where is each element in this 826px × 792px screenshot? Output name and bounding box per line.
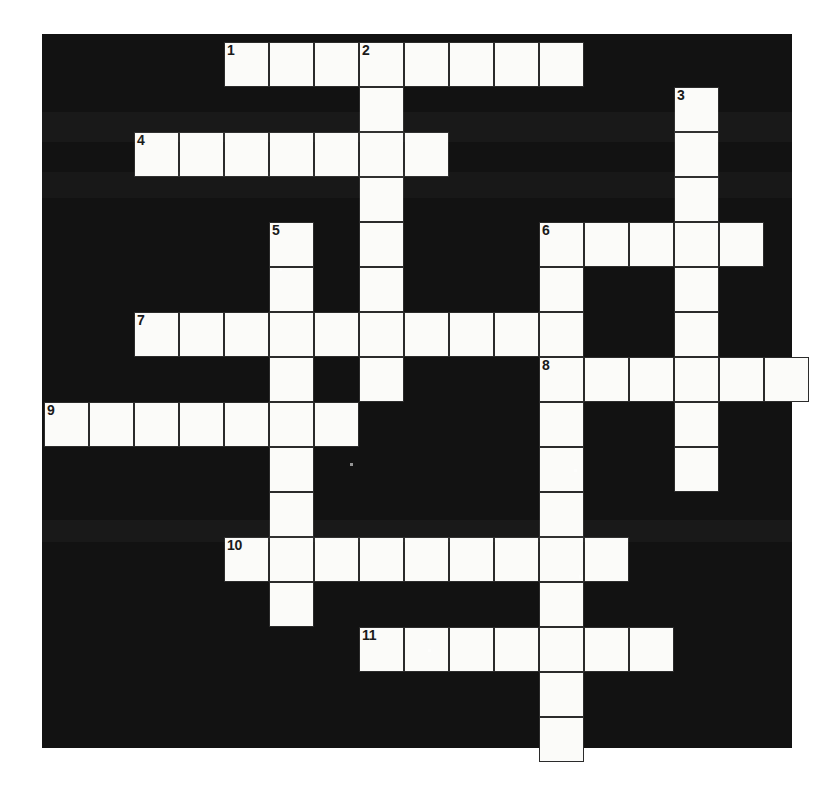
crossword-cell[interactable] <box>629 357 674 402</box>
crossword-cell[interactable]: 6 <box>539 222 584 267</box>
crossword-puzzle-page: 1234567891011 <box>0 0 826 792</box>
crossword-cell[interactable] <box>584 537 629 582</box>
crossword-cell[interactable] <box>179 312 224 357</box>
crossword-cell[interactable] <box>449 627 494 672</box>
crossword-cell[interactable] <box>494 312 539 357</box>
crossword-cell[interactable] <box>314 312 359 357</box>
crossword-cell[interactable] <box>494 537 539 582</box>
crossword-cell[interactable] <box>314 402 359 447</box>
clue-number: 1 <box>227 43 235 58</box>
crossword-cell[interactable] <box>674 402 719 447</box>
crossword-cell[interactable] <box>539 672 584 717</box>
crossword-cell[interactable] <box>539 492 584 537</box>
crossword-cell[interactable] <box>179 132 224 177</box>
clue-number: 2 <box>362 43 370 58</box>
crossword-cell[interactable] <box>359 357 404 402</box>
crossword-cell[interactable] <box>404 42 449 87</box>
crossword-cell[interactable] <box>629 222 674 267</box>
crossword-cell[interactable] <box>449 42 494 87</box>
crossword-cell[interactable]: 11 <box>359 627 404 672</box>
crossword-cell[interactable] <box>269 447 314 492</box>
crossword-cell[interactable] <box>539 582 584 627</box>
crossword-cell[interactable] <box>764 357 809 402</box>
crossword-cell[interactable] <box>539 717 584 762</box>
crossword-cell[interactable]: 4 <box>134 132 179 177</box>
crossword-grid[interactable]: 1234567891011 <box>42 34 792 748</box>
crossword-cell[interactable] <box>269 582 314 627</box>
crossword-cell[interactable] <box>224 312 269 357</box>
crossword-cell[interactable] <box>224 402 269 447</box>
crossword-cell[interactable]: 9 <box>44 402 89 447</box>
clue-number: 9 <box>47 403 55 418</box>
clue-number: 4 <box>137 133 145 148</box>
clue-number: 3 <box>677 88 685 103</box>
crossword-cell[interactable] <box>404 132 449 177</box>
crossword-cell[interactable] <box>314 537 359 582</box>
crossword-cell[interactable] <box>674 177 719 222</box>
crossword-cell[interactable] <box>269 537 314 582</box>
crossword-cell[interactable] <box>584 627 629 672</box>
crossword-cell[interactable] <box>404 627 449 672</box>
crossword-cell[interactable] <box>269 267 314 312</box>
crossword-cell[interactable] <box>719 357 764 402</box>
clue-number: 5 <box>272 223 280 238</box>
clue-number: 7 <box>137 313 145 328</box>
crossword-cell[interactable] <box>674 312 719 357</box>
crossword-cell[interactable] <box>674 447 719 492</box>
crossword-cell[interactable] <box>674 222 719 267</box>
crossword-cell[interactable] <box>719 222 764 267</box>
crossword-cell[interactable] <box>449 312 494 357</box>
crossword-cell[interactable]: 7 <box>134 312 179 357</box>
crossword-cell[interactable] <box>89 402 134 447</box>
crossword-cell[interactable] <box>539 402 584 447</box>
clue-number: 6 <box>542 223 550 238</box>
crossword-cell[interactable] <box>584 222 629 267</box>
crossword-cell[interactable]: 8 <box>539 357 584 402</box>
crossword-cell[interactable]: 5 <box>269 222 314 267</box>
crossword-cell[interactable] <box>314 132 359 177</box>
crossword-cell[interactable] <box>359 537 404 582</box>
crossword-cell[interactable] <box>179 402 224 447</box>
crossword-cell[interactable] <box>314 42 359 87</box>
clue-number: 8 <box>542 358 550 373</box>
crossword-cell[interactable]: 2 <box>359 42 404 87</box>
crossword-cell[interactable]: 10 <box>224 537 269 582</box>
crossword-cell[interactable] <box>539 537 584 582</box>
crossword-cell[interactable] <box>359 222 404 267</box>
crossword-cell[interactable] <box>449 537 494 582</box>
crossword-cell[interactable] <box>494 42 539 87</box>
crossword-cell[interactable] <box>359 132 404 177</box>
crossword-cell[interactable] <box>539 447 584 492</box>
crossword-cell[interactable] <box>539 312 584 357</box>
crossword-cell[interactable] <box>584 357 629 402</box>
crossword-cell[interactable] <box>269 492 314 537</box>
crossword-cell[interactable] <box>224 132 269 177</box>
crossword-cell[interactable] <box>134 402 179 447</box>
crossword-cell[interactable] <box>674 267 719 312</box>
crossword-cell[interactable]: 1 <box>224 42 269 87</box>
crossword-cell[interactable] <box>269 312 314 357</box>
crossword-cell[interactable] <box>269 357 314 402</box>
crossword-cell[interactable] <box>359 267 404 312</box>
crossword-cell[interactable] <box>269 42 314 87</box>
crossword-cell[interactable] <box>359 312 404 357</box>
crossword-cell[interactable] <box>269 402 314 447</box>
crossword-cell[interactable] <box>539 267 584 312</box>
crossword-cell[interactable] <box>539 42 584 87</box>
clue-number: 11 <box>362 628 376 643</box>
crossword-cell[interactable] <box>269 132 314 177</box>
crossword-cell[interactable] <box>674 357 719 402</box>
crossword-cell[interactable] <box>359 177 404 222</box>
crossword-cell[interactable] <box>359 87 404 132</box>
crossword-cell[interactable] <box>404 312 449 357</box>
crossword-cell[interactable] <box>539 627 584 672</box>
crossword-cell[interactable] <box>494 627 539 672</box>
crossword-cell[interactable]: 3 <box>674 87 719 132</box>
crossword-cell[interactable] <box>404 537 449 582</box>
crossword-cell[interactable] <box>629 627 674 672</box>
clue-number: 10 <box>227 538 242 553</box>
crossword-cell[interactable] <box>674 132 719 177</box>
